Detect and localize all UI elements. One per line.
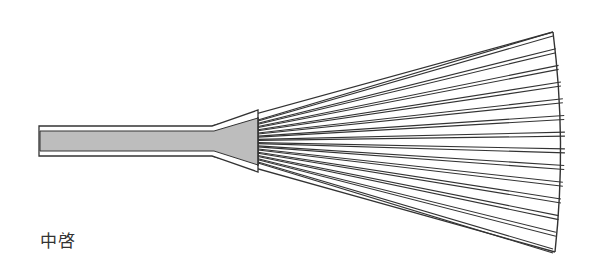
fan-ribs	[212, 32, 565, 253]
fan-handle	[39, 110, 258, 172]
fan-caption: 中啓	[40, 227, 76, 252]
fan-illustration	[0, 0, 598, 275]
